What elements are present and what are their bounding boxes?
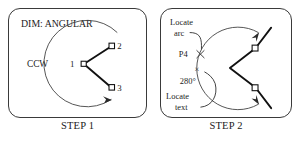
- step-2-caption: STEP 2: [160, 120, 292, 131]
- locate-arc-leader-line: [190, 33, 202, 50]
- locate-text-label-line-2: text: [175, 102, 188, 112]
- angular-dimension-arc: [197, 27, 259, 109]
- point-label-3: 3: [117, 83, 122, 93]
- vertex-square-marker-icon: [81, 61, 86, 66]
- pick-point-label-p4: P4: [179, 49, 189, 59]
- angular-dimension-value: 280°: [180, 76, 196, 86]
- panel-step-2: Locate arc P4 × 280° Locate text: [160, 8, 292, 118]
- arc-arrow-head-top-icon: [252, 32, 260, 42]
- point-2-square-marker-icon: [109, 43, 114, 48]
- extension-marker-top-square-icon: [252, 45, 258, 51]
- arc-arrow-head-bottom-icon: [252, 95, 260, 105]
- dim-angular-prompt: DIM: ANGULAR: [21, 18, 93, 29]
- step-2-drawing: Locate arc P4 × 280° Locate text: [161, 9, 291, 117]
- locate-text-label-line-1: Locate: [166, 91, 189, 101]
- point-label-2: 2: [117, 41, 121, 51]
- angle-leg-to-point-3: [84, 64, 111, 88]
- ccw-direction-label: CCW: [27, 59, 48, 69]
- angle-legs-polyline: [230, 28, 271, 109]
- step-1-drawing: DIM: ANGULAR CCW 1 2 3: [9, 9, 146, 117]
- angular-dimension-figure: DIM: ANGULAR CCW 1 2 3 STEP 1: [0, 0, 300, 144]
- extension-marker-bottom-square-icon: [252, 85, 258, 91]
- angle-leg-to-point-2: [84, 46, 111, 64]
- step-1-caption: STEP 1: [8, 120, 147, 131]
- locate-arc-label-line-2: arc: [174, 28, 185, 38]
- panel-step-1: DIM: ANGULAR CCW 1 2 3: [8, 8, 147, 118]
- vertex-label-1: 1: [70, 59, 74, 69]
- locate-arc-label-line-1: Locate: [170, 17, 193, 27]
- point-3-square-marker-icon: [109, 85, 114, 90]
